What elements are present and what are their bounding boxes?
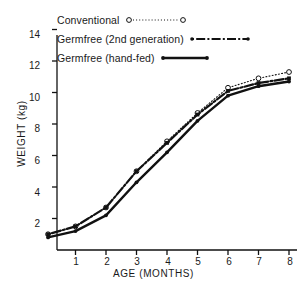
series-2: [46, 80, 291, 240]
data-series-layer: [46, 70, 292, 240]
series-1: [46, 76, 291, 236]
x-axis-ticks: [76, 250, 290, 255]
weight-vs-age-line-chart: Conventional Germfree (2nd generation): [0, 0, 307, 287]
y-axis-ticks: [52, 30, 57, 219]
plot-area: [0, 0, 307, 287]
